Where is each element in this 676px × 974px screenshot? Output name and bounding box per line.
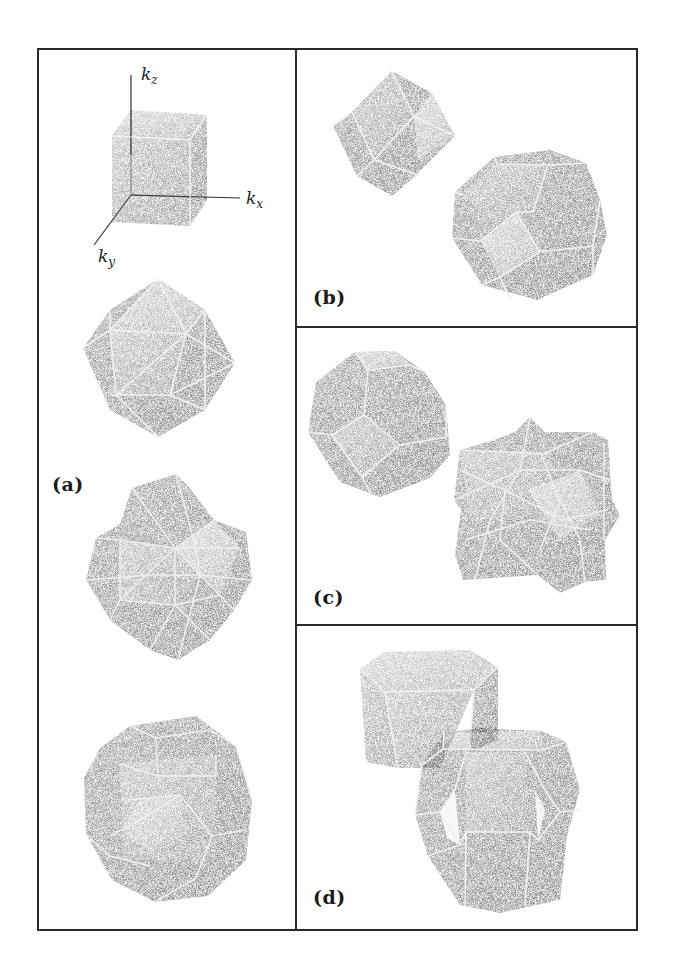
stellated-cube-compound [454, 417, 620, 593]
polyhedron-a2 [83, 279, 235, 437]
kx-sub: x [256, 197, 263, 211]
polyhedra-artwork [0, 0, 676, 974]
polyhedron-a4 [84, 716, 252, 902]
kz-sub: z [151, 73, 157, 87]
panel-label-d: (d) [313, 886, 346, 908]
hexagonal-second-zone [415, 728, 580, 913]
panel-label-c: (c) [313, 586, 344, 608]
ky-sub: y [108, 255, 115, 269]
brillouin-zone-figure: kz kx ky (a) (b) (c) (d) [0, 0, 676, 974]
rhombic-dodecahedron [333, 71, 455, 196]
cube-with-axes [94, 75, 240, 245]
truncated-octahedron-c [308, 351, 450, 497]
kx-base: k [246, 188, 256, 208]
polyhedron-a3 [86, 474, 252, 660]
kx-axis-label: kx [246, 188, 263, 211]
ky-axis-label: ky [98, 246, 115, 269]
truncated-octahedron-b [452, 150, 607, 300]
kz-axis-label: kz [141, 64, 158, 87]
kz-base: k [141, 64, 151, 84]
panel-label-b: (b) [313, 286, 346, 308]
ky-base: k [98, 246, 108, 266]
panel-label-a: (a) [52, 473, 84, 495]
